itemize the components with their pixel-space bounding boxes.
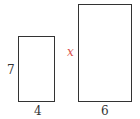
small-rect-width-label: 4 — [34, 105, 42, 117]
small-rectangle — [18, 36, 55, 102]
small-rect-height-label: 7 — [7, 64, 15, 76]
large-rect-width-label: 6 — [101, 105, 109, 117]
large-rect-height-label: x — [67, 46, 74, 58]
large-rectangle — [78, 4, 132, 102]
